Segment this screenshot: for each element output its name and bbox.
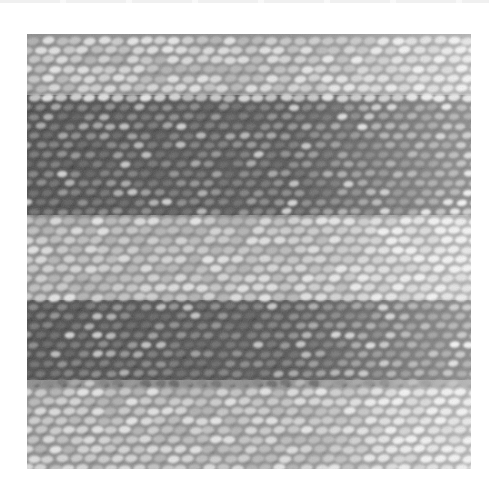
fabric-texture-photo <box>27 34 471 469</box>
page-top-edge <box>0 0 489 3</box>
woven-fabric-image <box>27 34 471 469</box>
